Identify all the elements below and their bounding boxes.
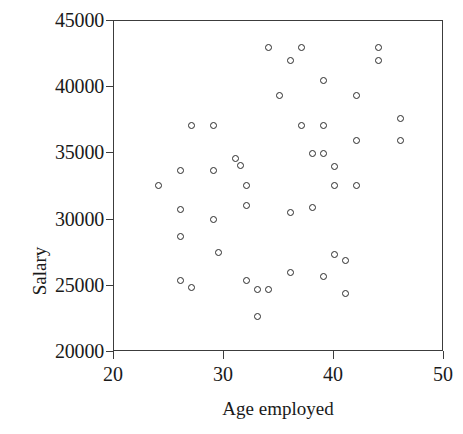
plot-area [113,20,443,351]
y-axis-tick [106,219,114,220]
data-point [188,284,195,291]
data-point [309,150,316,157]
y-axis-tick [106,152,114,153]
x-axis-tick-label: 20 [83,364,143,384]
data-point [331,251,338,258]
data-point [397,115,404,122]
data-point [155,182,162,189]
y-axis-tick-label: 45000 [8,10,104,30]
scatter-plot-figure: 200002500030000350004000045000 Salary Ag… [0,0,463,434]
data-point [320,150,327,157]
data-point [287,57,294,64]
data-point [177,233,184,240]
data-point [177,206,184,213]
data-point [237,162,244,169]
data-point [265,44,272,51]
data-point [254,286,261,293]
data-point [353,137,360,144]
x-axis-tick [113,351,114,359]
data-point [320,77,327,84]
data-point [210,167,217,174]
data-point [215,249,222,256]
data-point [276,92,283,99]
data-point [331,182,338,189]
data-point [232,155,239,162]
y-axis-tick-label: 40000 [8,76,104,96]
data-point [342,257,349,264]
data-point [254,313,261,320]
y-axis-tick [106,285,114,286]
data-point [353,182,360,189]
data-point [210,122,217,129]
x-axis-tick [333,351,334,359]
data-point [243,202,250,209]
data-point [397,137,404,144]
data-point [375,57,382,64]
x-axis-tick-label: 50 [413,364,463,384]
data-point [210,216,217,223]
data-point [243,277,250,284]
data-point [320,122,327,129]
data-point [287,209,294,216]
x-axis-tick [223,351,224,359]
data-point [309,204,316,211]
x-axis-title: Age employed [113,398,443,420]
data-point [298,122,305,129]
y-axis-tick [106,20,114,21]
x-axis-tick [443,351,444,359]
data-point [243,182,250,189]
x-axis-tick-label: 30 [193,364,253,384]
data-point [342,290,349,297]
data-point [287,269,294,276]
data-points-layer [114,21,442,350]
data-point [177,277,184,284]
data-point [265,286,272,293]
data-point [320,273,327,280]
y-axis-title: Salary [29,201,51,341]
data-point [375,44,382,51]
data-point [188,122,195,129]
data-point [331,163,338,170]
data-point [177,167,184,174]
x-axis-tick-label: 40 [303,364,363,384]
data-point [353,92,360,99]
y-axis-tick-label: 25000 [8,275,104,295]
data-point [298,44,305,51]
y-axis-tick-label: 20000 [8,341,104,361]
y-axis-title-holder: Salary [14,110,54,250]
y-axis-tick [106,86,114,87]
